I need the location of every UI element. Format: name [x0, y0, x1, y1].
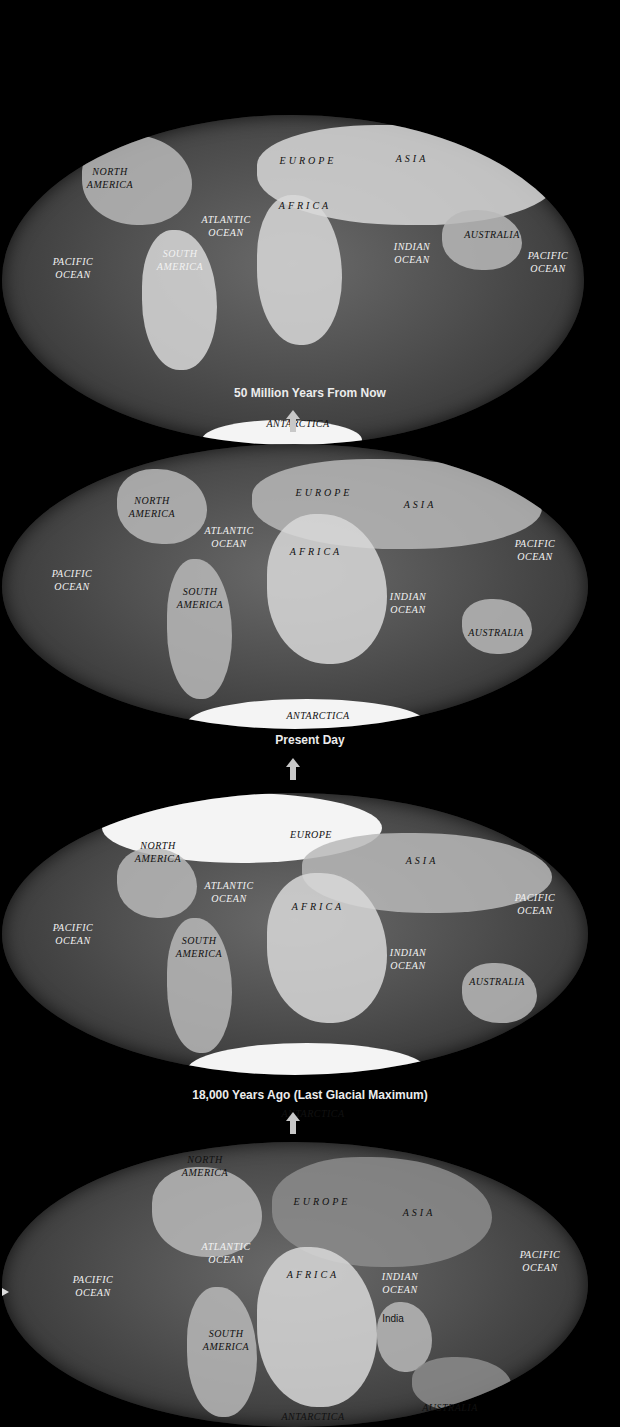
label-australia: AUSTRALIA [469, 975, 525, 988]
label-europe: EUROPE [290, 828, 332, 841]
label-europe: EUROPE [296, 486, 353, 499]
caption-50-million-years: 50 Million Years From Now [0, 386, 620, 400]
label-pacific-ocean-west: PACIFIC OCEAN [52, 567, 93, 593]
label-north-america: NORTH AMERICA [129, 494, 175, 520]
landmass-south-america [167, 559, 232, 699]
label-atlantic-ocean: ATLANTIC OCEAN [201, 213, 250, 239]
caption-last-glacial-maximum: 18,000 Years Ago (Last Glacial Maximum) [0, 1088, 620, 1102]
label-pacific-ocean-east: PACIFIC OCEAN [515, 891, 556, 917]
label-atlantic-ocean: ATLANTIC OCEAN [204, 524, 253, 550]
label-africa: AFRICA [287, 1268, 339, 1281]
label-asia: ASIA [403, 1206, 436, 1219]
label-south-america: SOUTH AMERICA [176, 934, 222, 960]
label-pacific-ocean-east: PACIFIC OCEAN [528, 249, 569, 275]
label-africa: AFRICA [290, 545, 342, 558]
label-india: India [382, 1312, 404, 1325]
label-indian-ocean: INDIAN OCEAN [394, 240, 430, 266]
label-asia: ASIA [396, 152, 429, 165]
caption-present-day: Present Day [0, 733, 620, 747]
label-antarctica: ANTARCTICA [281, 1410, 344, 1423]
label-south-america: SOUTH AMERICA [177, 585, 223, 611]
label-atlantic-ocean: ATLANTIC OCEAN [201, 1240, 250, 1266]
label-indian-ocean: INDIAN OCEAN [382, 1270, 418, 1296]
label-asia: ASIA [406, 854, 439, 867]
ice-antarctica [187, 1043, 427, 1075]
label-africa: AFRICA [292, 900, 344, 913]
label-north-america: NORTH AMERICA [182, 1153, 228, 1179]
label-pacific-ocean-west: PACIFIC OCEAN [53, 255, 94, 281]
label-australia: AUSTRALIA [464, 228, 520, 241]
label-asia: ASIA [404, 498, 437, 511]
edge-pointer-icon [2, 1288, 9, 1296]
label-pacific-ocean-west: PACIFIC OCEAN [53, 921, 94, 947]
label-africa: AFRICA [279, 199, 331, 212]
label-north-america: NORTH AMERICA [135, 839, 181, 865]
label-europe: EUROPE [294, 1195, 351, 1208]
arrow-up-icon [286, 758, 300, 780]
label-europe: EUROPE [280, 154, 337, 167]
label-pacific-ocean-west: PACIFIC OCEAN [73, 1273, 114, 1299]
label-antarctica: ANTARCTICA [286, 709, 349, 722]
label-pacific-ocean-east: PACIFIC OCEAN [515, 537, 556, 563]
arrow-up-icon [286, 1112, 300, 1134]
label-north-america: NORTH AMERICA [87, 165, 133, 191]
label-australia: AUSTRALIA [468, 626, 524, 639]
label-indian-ocean: INDIAN OCEAN [390, 590, 426, 616]
label-atlantic-ocean: ATLANTIC OCEAN [204, 879, 253, 905]
arrow-up-icon [286, 410, 300, 432]
landmass-australia [462, 963, 537, 1023]
label-south-america: SOUTH AMERICA [157, 247, 203, 273]
label-pacific-ocean-east: PACIFIC OCEAN [520, 1248, 561, 1274]
label-south-america: SOUTH AMERICA [203, 1327, 249, 1353]
label-australia: AUSTRALIA [422, 1401, 478, 1414]
label-indian-ocean: INDIAN OCEAN [390, 946, 426, 972]
